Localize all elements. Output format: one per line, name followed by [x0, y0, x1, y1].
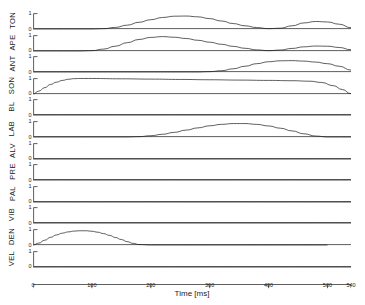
y-tick-max: 1 — [28, 141, 31, 147]
y-tick-max: 1 — [28, 184, 31, 190]
panel-label-text: TON — [8, 12, 17, 29]
time-tick-0: 0 — [31, 282, 34, 288]
panel-plot — [33, 78, 351, 94]
panel-bl: 10 — [33, 99, 351, 115]
panel-plot — [33, 99, 351, 115]
panel-axes — [34, 143, 351, 158]
panel-label-text: VIB — [7, 208, 16, 221]
panel-plot — [33, 186, 351, 202]
panel-label-alv: ALV — [0, 146, 24, 155]
panel-son: 10 — [33, 78, 351, 94]
panel-plot — [33, 35, 351, 51]
panel-label-text: LAB — [7, 121, 16, 136]
panel-plot — [33, 207, 351, 223]
panel-plot — [33, 229, 351, 245]
panel-vel: 10 — [33, 251, 351, 267]
panel-label-text: DEN — [7, 228, 16, 245]
panel-plot — [33, 121, 351, 137]
panel-label-text: APE — [8, 34, 17, 50]
panel-plot — [33, 164, 351, 180]
panel-axes — [34, 100, 351, 115]
panel-axes — [34, 165, 351, 180]
activation-curve — [33, 78, 351, 94]
panel-label-text: BL — [7, 102, 16, 112]
panel-label-text: SON — [7, 77, 16, 94]
panel-label-ton: TON — [0, 16, 24, 25]
activation-curve — [33, 231, 327, 245]
y-tick-max: 1 — [28, 97, 31, 103]
time-tick-400: 400 — [264, 282, 273, 288]
panel-label-son: SON — [0, 81, 24, 90]
panel-alv: 10 — [33, 143, 351, 159]
panel-label-text: PAL — [7, 186, 16, 201]
panel-plot — [33, 13, 351, 29]
activation-curve — [33, 16, 351, 29]
panel-label-vib: VIB — [0, 210, 24, 219]
y-tick-max: 1 — [28, 227, 31, 233]
time-tick-300: 300 — [205, 282, 214, 288]
panel-axes — [34, 230, 351, 245]
panel-den: 10 — [33, 229, 351, 245]
activation-curve — [33, 61, 351, 72]
panel-plot — [33, 251, 351, 267]
panel-label-text: ALV — [7, 143, 16, 158]
panel-label-ape: APE — [0, 38, 24, 47]
panel-vib: 10 — [33, 207, 351, 223]
y-tick-max: 1 — [28, 205, 31, 211]
panel-ant: 10 — [33, 56, 351, 72]
x-axis-title: Time [ms] — [33, 289, 351, 298]
panel-pal: 10 — [33, 186, 351, 202]
time-tick-100: 100 — [87, 282, 96, 288]
panel-label-vel: VEL — [0, 254, 24, 263]
time-axis: 0100200300400500540 Time [ms] — [33, 276, 351, 304]
panel-lab: 10 — [33, 121, 351, 137]
panel-ape: 10 — [33, 35, 351, 51]
panel-ton: 10 — [33, 13, 351, 29]
gestural-score-figure: TON10APE10ANT10SON10BL10LAB10ALV10PRE10P… — [0, 0, 365, 305]
panel-axes — [34, 186, 351, 201]
panel-label-ant: ANT — [0, 59, 24, 68]
panel-label-lab: LAB — [0, 124, 24, 133]
panel-label-den: DEN — [0, 232, 24, 241]
y-tick-max: 1 — [28, 162, 31, 168]
y-tick-max: 1 — [28, 33, 31, 39]
panel-axes — [34, 208, 351, 223]
y-tick-min: 0 — [28, 264, 31, 270]
panel-axes — [34, 35, 351, 50]
y-tick-max: 1 — [28, 249, 31, 255]
panel-pre: 10 — [33, 164, 351, 180]
panel-label-pre: PRE — [0, 167, 24, 176]
panel-label-text: ANT — [7, 56, 16, 72]
panel-axes — [34, 251, 351, 266]
panel-axes — [34, 57, 351, 72]
panel-axes — [34, 14, 351, 29]
panel-plot — [33, 143, 351, 159]
panel-label-text: VEL — [7, 250, 16, 265]
panel-label-bl: BL — [0, 102, 24, 111]
activation-curve — [33, 124, 351, 137]
y-tick-max: 1 — [28, 54, 31, 60]
y-tick-max: 1 — [28, 119, 31, 125]
panel-label-pal: PAL — [0, 189, 24, 198]
time-tick-500: 500 — [323, 282, 332, 288]
y-tick-max: 1 — [28, 76, 31, 82]
panel-plot — [33, 56, 351, 72]
activation-curve — [33, 36, 351, 50]
y-tick-max: 1 — [28, 11, 31, 17]
panel-label-text: PRE — [8, 163, 17, 180]
time-tick-540: 540 — [346, 282, 355, 288]
time-tick-200: 200 — [146, 282, 155, 288]
